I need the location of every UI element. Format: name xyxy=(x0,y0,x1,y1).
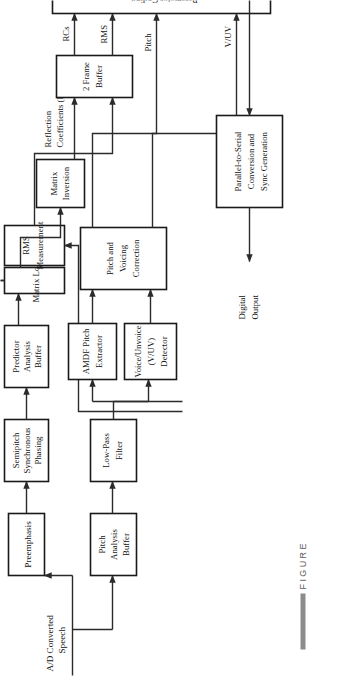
block-pitch-analysis-label-1: Analysis xyxy=(108,528,118,559)
block-diagram-svg: A/D Converted Speech Preemphasis Semipit… xyxy=(0,0,337,693)
block-amdf-label-0: AMDF Pitch xyxy=(80,328,90,374)
block-predictor-label-2: Buffer xyxy=(32,345,42,368)
block-low-pass-label-1: Filter xyxy=(113,440,123,459)
block-vuv-label-1: (V/UV) xyxy=(145,337,155,364)
block-two-frame-buffer-label-1: Buffer xyxy=(93,65,103,88)
block-rms-measurement[interactable]: RMS Measurement xyxy=(4,221,64,269)
block-preemphasis[interactable]: Preemphasis xyxy=(8,513,44,575)
block-two-frame-buffer-label-0: 2 Frame xyxy=(80,61,90,90)
block-parallel-serial-label-1: Conversion and xyxy=(245,133,255,189)
edge-label-output: Digital Output xyxy=(236,294,259,319)
edge-label-input-line-1: Speech xyxy=(56,626,66,653)
block-parallel-to-serial[interactable]: Parallel-to-Serial Conversion and Sync G… xyxy=(216,115,282,207)
block-semipitch-label-1: Synchronous xyxy=(21,426,31,473)
block-predictor-label-0: Predictor xyxy=(10,340,20,372)
block-parameter-coding[interactable]: Parameter Coding xyxy=(52,0,270,13)
block-parallel-serial-label-2: Sync Generation xyxy=(258,131,268,190)
block-semipitch-label-0: Semipitch xyxy=(10,432,20,468)
edge-label-input-line-0: A/D Converted xyxy=(44,614,54,671)
edge-label-output-line-1: Output xyxy=(249,294,259,319)
block-vuv-label-0: Voice/Unvoice xyxy=(132,325,142,377)
edge-label-input: A/D Converted Speech xyxy=(44,614,66,671)
block-matrix-inversion-label-1: Inversion xyxy=(60,166,70,200)
block-vuv-label-2: Detector xyxy=(158,336,168,366)
edge-label-rc-line-0: Reflection xyxy=(42,110,52,147)
block-preemphasis-label-0: Preemphasis xyxy=(22,520,32,567)
block-vuv-detector[interactable]: Voice/Unvoice (V/UV) Detector xyxy=(124,323,176,379)
block-matrix-inversion[interactable]: Matrix Inversion xyxy=(36,159,84,207)
block-low-pass-label-0: Low-Pass xyxy=(100,432,110,467)
block-pitch-analysis-label-0: Pitch xyxy=(96,534,106,553)
block-predictor[interactable]: Predictor Analysis Buffer xyxy=(4,325,48,387)
block-predictor-label-1: Analysis xyxy=(21,340,31,371)
block-parameter-coding-label-0: Parameter Coding xyxy=(130,0,197,4)
edge-label-vuv: V/UV xyxy=(222,25,232,47)
block-low-pass-filter[interactable]: Low-Pass Filter xyxy=(90,419,136,481)
block-semipitch[interactable]: Semipitch Synchronous Phasing xyxy=(4,419,48,481)
block-two-frame-buffer[interactable]: 2 Frame Buffer xyxy=(56,55,132,97)
block-pitch-analysis-label-2: Buffer xyxy=(120,533,130,556)
rotated-diagram-canvas: A/D Converted Speech Preemphasis Semipit… xyxy=(0,0,337,693)
edge-label-pitch: Pitch xyxy=(142,32,152,51)
block-rms-measurement-label-1: Measurement xyxy=(34,221,44,269)
edge-label-output-line-0: Digital xyxy=(236,294,246,319)
block-pitch-voicing-correction[interactable]: Pitch and Voicing Correction xyxy=(80,227,166,289)
block-matrix-inversion-label-0: Matrix xyxy=(48,170,58,195)
block-amdf-label-1: Extractor xyxy=(93,335,103,368)
edge-label-rcs: RCs xyxy=(60,25,70,41)
block-pitch-voicing-label-0: Pitch and xyxy=(104,241,114,275)
block-semipitch-label-2: Phasing xyxy=(32,435,42,463)
block-pitch-voicing-label-1: Voicing xyxy=(117,244,127,272)
block-parallel-serial-label-0: Parallel-to-Serial xyxy=(232,130,242,191)
block-pitch-analysis-buffer[interactable]: Pitch Analysis Buffer xyxy=(90,513,136,575)
block-amdf-pitch-extractor[interactable]: AMDF Pitch Extractor xyxy=(68,323,116,379)
figure-caption-label: FIGURE xyxy=(297,541,307,589)
edge-label-rms: RMS xyxy=(98,24,108,43)
caption-bar xyxy=(300,593,305,649)
figure-page: A/D Converted Speech Preemphasis Semipit… xyxy=(0,0,337,693)
block-pitch-voicing-label-2: Correction xyxy=(130,239,140,277)
block-rms-measurement-label-0: RMS xyxy=(20,236,30,255)
